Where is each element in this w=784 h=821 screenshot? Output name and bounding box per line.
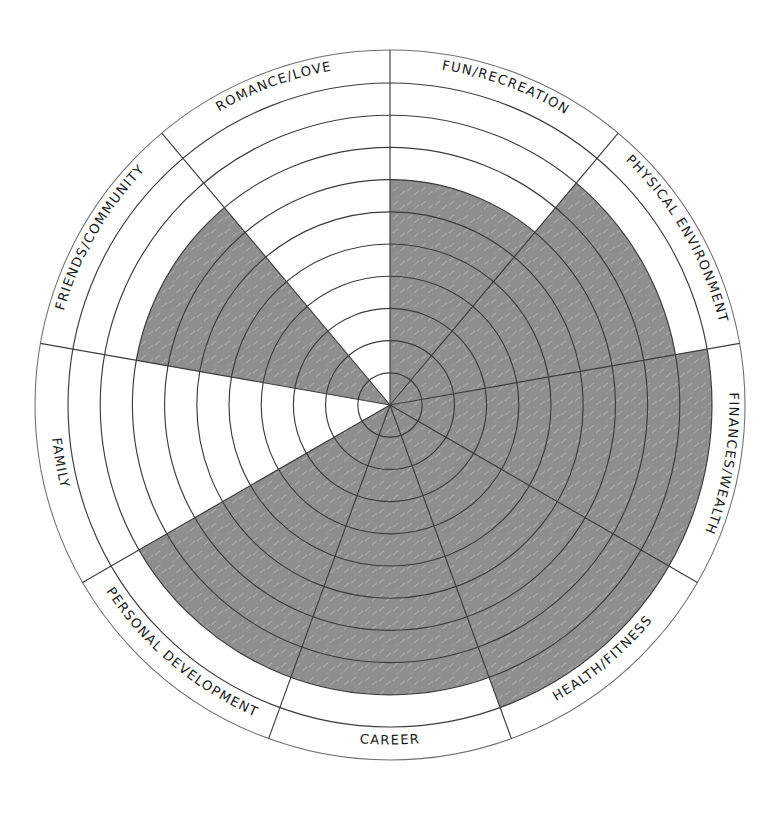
sector-label-fun-recreation: FUN/RECREATION	[441, 58, 572, 118]
wheel-of-life-chart: FUN/RECREATIONPHYSICAL ENVIRONMENTFINANC…	[0, 0, 784, 821]
sector-label-family: FAMILY	[49, 437, 73, 490]
sector-fills-layer	[136, 180, 712, 708]
wheel-of-life-svg: FUN/RECREATIONPHYSICAL ENVIRONMENTFINANC…	[0, 0, 784, 821]
sector-label-romance-love: ROMANCE/LOVE	[213, 59, 333, 115]
sector-label-friends-community: FRIENDS/COMMUNITY	[52, 161, 147, 312]
sector-label-career: CAREER	[359, 731, 420, 747]
